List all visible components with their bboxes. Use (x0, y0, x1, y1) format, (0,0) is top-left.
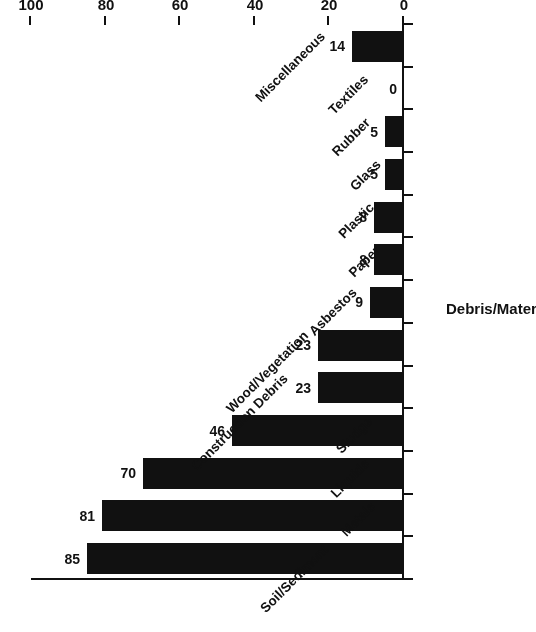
bar (370, 287, 404, 318)
value-axis-tick (253, 16, 255, 25)
bar-row: 23 (31, 330, 404, 361)
value-axis-tick-label: 80 (97, 0, 114, 12)
value-axis-tick (104, 16, 106, 25)
bar (318, 330, 404, 361)
value-axis-tick (178, 16, 180, 25)
bar-chart: 85817046232398855014 020406080100 Soil/S… (0, 0, 536, 632)
category-axis-tick (404, 66, 413, 68)
bar (232, 415, 404, 446)
category-axis-tick (404, 151, 413, 153)
category-axis-tick (404, 407, 413, 409)
bar-value-label: 0 (389, 82, 397, 96)
bar-row: 14 (31, 31, 404, 62)
category-axis-tick (404, 279, 413, 281)
value-axis-tick-label: 60 (172, 0, 189, 12)
category-axis: Soil/SedimentMetalsLiquidsSludgeConstruc… (403, 25, 404, 580)
value-axis-tick-label: 0 (400, 0, 408, 12)
bar (385, 116, 404, 147)
bar-row: 85 (31, 543, 404, 574)
bar (87, 543, 404, 574)
bar-value-label: 81 (79, 509, 95, 523)
value-axis: 020406080100 (31, 24, 404, 25)
value-axis-tick (29, 16, 31, 25)
category-axis-tick (404, 194, 413, 196)
value-axis-tick-label: 40 (246, 0, 263, 12)
bar-value-label: 14 (329, 39, 345, 53)
bar-row: 5 (31, 159, 404, 190)
bar-value-label: 70 (120, 466, 136, 480)
bar (318, 372, 404, 403)
bar-row: 23 (31, 372, 404, 403)
category-axis-tick (404, 578, 413, 580)
value-axis-tick-label: 20 (321, 0, 338, 12)
value-axis-tick (327, 16, 329, 25)
category-axis-tick (404, 236, 413, 238)
category-axis-tick (404, 23, 413, 25)
category-axis-tick (404, 493, 413, 495)
category-axis-tick (404, 450, 413, 452)
category-axis-tick (404, 535, 413, 537)
category-axis-tick (404, 322, 413, 324)
category-axis-title: Debris/Material Type (446, 301, 536, 316)
category-axis-tick (404, 365, 413, 367)
bar (374, 202, 404, 233)
rotated-figure: 85817046232398855014 020406080100 Soil/S… (0, 0, 536, 632)
bar-value-label: 23 (296, 381, 312, 395)
bar (385, 159, 404, 190)
category-axis-tick (404, 108, 413, 110)
bar (352, 31, 404, 62)
bar-value-label: 85 (64, 552, 80, 566)
value-axis-tick-label: 100 (18, 0, 43, 12)
